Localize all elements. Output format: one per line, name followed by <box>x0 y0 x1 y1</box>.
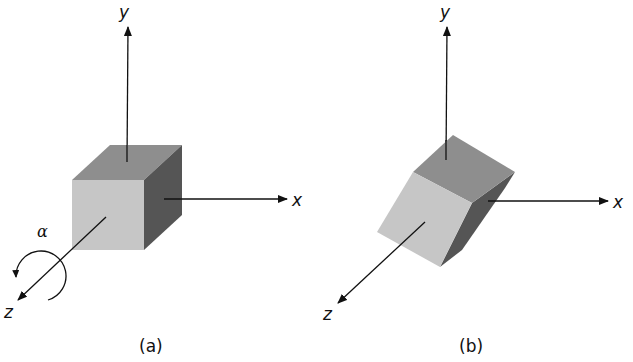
x-label-a: x <box>291 190 303 210</box>
y-label-b: y <box>439 2 451 22</box>
caption-b: (b) <box>459 336 483 356</box>
y-axis-a <box>127 27 128 162</box>
rotation-arrow-icon <box>16 251 66 300</box>
z-label-b: z <box>322 304 333 324</box>
alpha-label: α <box>37 222 48 241</box>
panel-b: y x z (b) <box>322 2 624 356</box>
z-axis-a <box>18 217 106 300</box>
z-label-a: z <box>3 302 14 322</box>
panel-a: y x z α (a) <box>3 2 303 356</box>
y-label-a: y <box>118 2 130 22</box>
figure-canvas: y x z α (a) y x z (b) <box>0 0 633 362</box>
caption-a: (a) <box>139 336 163 356</box>
x-label-b: x <box>612 192 624 212</box>
